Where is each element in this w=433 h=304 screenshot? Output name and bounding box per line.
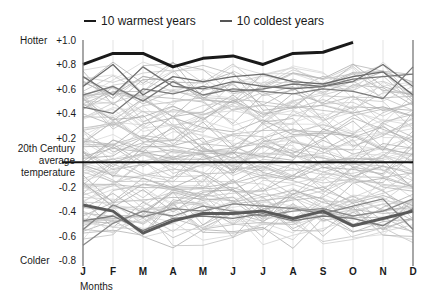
colder-label: Colder bbox=[20, 255, 50, 266]
background-year-line bbox=[83, 162, 413, 194]
hotter-label: Hotter bbox=[20, 35, 48, 46]
x-tick-label: D bbox=[409, 266, 416, 277]
y-tick-label: +0.8 bbox=[56, 59, 76, 70]
x-tick-label: J bbox=[260, 266, 266, 277]
x-tick-label: J bbox=[230, 266, 236, 277]
x-tick-label: S bbox=[320, 266, 327, 277]
x-tick-label: F bbox=[110, 266, 116, 277]
y-tick-label: -0.2 bbox=[59, 182, 77, 193]
y-tick-label: +0.6 bbox=[56, 84, 76, 95]
y-tick-label: +0.4 bbox=[56, 108, 76, 119]
series-line bbox=[83, 42, 353, 66]
x-tick-label: A bbox=[289, 266, 296, 277]
baseline-annotation: average bbox=[39, 155, 76, 166]
x-axis-title: Months bbox=[80, 281, 113, 292]
background-year-line bbox=[83, 109, 413, 141]
x-tick-label: M bbox=[139, 266, 147, 277]
y-tick-label: -0.8 bbox=[59, 255, 77, 266]
y-tick-label: -0.4 bbox=[59, 206, 77, 217]
temperature-chart: +1.0+0.8+0.6+0.4+0.2-0.2-0.4-0.6-0.8Hott… bbox=[0, 0, 433, 304]
x-tick-label: N bbox=[379, 266, 386, 277]
y-tick-label: +0.2 bbox=[56, 133, 76, 144]
x-tick-label: A bbox=[169, 266, 176, 277]
x-tick-label: J bbox=[80, 266, 86, 277]
y-tick-label: +1.0 bbox=[56, 35, 76, 46]
baseline-annotation: temperature bbox=[21, 167, 75, 178]
baseline-annotation: 20th Century bbox=[18, 143, 75, 154]
x-tick-label: M bbox=[199, 266, 207, 277]
x-tick-label: O bbox=[349, 266, 357, 277]
y-tick-label: -0.6 bbox=[59, 231, 77, 242]
